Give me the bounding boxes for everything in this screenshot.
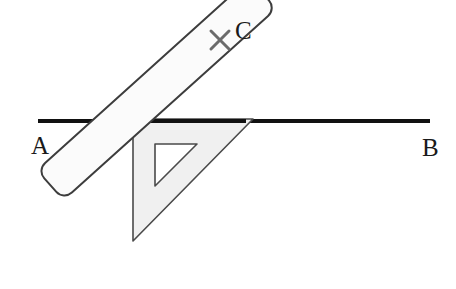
set-square-body — [133, 119, 253, 241]
figure-canvas: A B C — [0, 0, 456, 289]
set-square[interactable] — [133, 119, 253, 241]
label-point-c: C — [235, 18, 252, 43]
label-point-a: A — [31, 133, 49, 158]
geometry-illustration — [0, 0, 456, 289]
label-point-b: B — [422, 135, 439, 160]
